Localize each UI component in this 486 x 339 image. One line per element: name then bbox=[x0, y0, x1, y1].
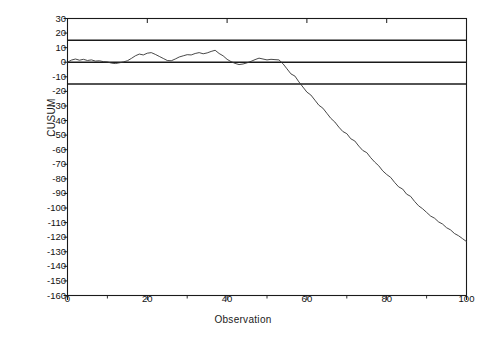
x-tick-label: 40 bbox=[207, 294, 247, 304]
x-tick-label: 80 bbox=[367, 294, 407, 304]
x-axis-title: Observation bbox=[0, 314, 486, 325]
cusum-chart-figure: CUSUM 3020100-10-20-30-40-50-60-70-80-90… bbox=[0, 0, 486, 339]
x-axis-tick-labels: 020406080100 bbox=[0, 294, 486, 310]
plot-area bbox=[0, 0, 486, 339]
x-tick-label: 20 bbox=[127, 294, 167, 304]
series-line-0 bbox=[68, 50, 467, 241]
x-tick-label: 60 bbox=[287, 294, 327, 304]
axis-tick-marks bbox=[64, 19, 467, 301]
data-series-group bbox=[68, 50, 467, 241]
x-tick-label: 100 bbox=[447, 294, 486, 304]
reference-lines bbox=[68, 40, 467, 84]
x-tick-label: 0 bbox=[48, 294, 88, 304]
